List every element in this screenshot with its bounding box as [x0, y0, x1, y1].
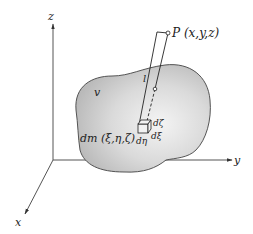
point-p-marker: [166, 31, 170, 35]
distance-label: l: [143, 73, 146, 84]
d-zeta-label: dζ: [153, 118, 165, 128]
d-xi-label: dξ: [151, 131, 163, 141]
diagram-canvas: z y x v P (x,y,z) l dm (ξ,η,ζ) dζ dξ dη: [0, 0, 253, 234]
point-p-label: P (x,y,z): [171, 26, 219, 40]
y-axis-label: y: [233, 154, 241, 167]
z-axis-label: z: [47, 10, 54, 23]
surface-exit-marker: [153, 87, 157, 91]
x-axis: [25, 160, 53, 214]
mass-element-label: dm (ξ,η,ζ): [80, 132, 135, 145]
body-label: v: [94, 86, 101, 99]
d-eta-label: dη: [136, 136, 148, 146]
x-axis-label: x: [15, 216, 22, 229]
mass-element-cube: [138, 120, 151, 133]
